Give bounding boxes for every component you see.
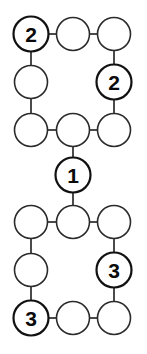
graph-node-plain[interactable] <box>15 66 48 99</box>
node-circle-icon[interactable] <box>57 114 90 147</box>
graph-node-plain[interactable] <box>57 114 90 147</box>
graph-node-labeled[interactable]: 1 <box>56 158 91 193</box>
graph-node-plain[interactable] <box>98 114 131 147</box>
node-circle-icon[interactable] <box>57 18 90 51</box>
graph-node-plain[interactable] <box>15 254 48 287</box>
graph-node-labeled[interactable]: 2 <box>14 17 49 52</box>
node-circle-icon[interactable] <box>57 302 90 335</box>
graph-node-plain[interactable] <box>57 206 90 239</box>
node-circle-icon[interactable] <box>98 18 131 51</box>
node-label: 3 <box>25 307 37 330</box>
node-circle-icon[interactable] <box>15 66 48 99</box>
graph-node-labeled[interactable]: 2 <box>97 65 132 100</box>
graph-node-plain[interactable] <box>98 206 131 239</box>
graph-node-plain[interactable] <box>98 302 131 335</box>
node-circle-icon[interactable] <box>98 302 131 335</box>
graph-node-plain[interactable] <box>15 114 48 147</box>
graph-node-labeled[interactable]: 3 <box>97 253 132 288</box>
graph-node-plain[interactable] <box>98 18 131 51</box>
node-circle-icon[interactable] <box>15 114 48 147</box>
node-circle-icon[interactable] <box>57 206 90 239</box>
node-circle-icon[interactable] <box>15 206 48 239</box>
node-label: 2 <box>25 23 37 46</box>
node-circle-icon[interactable] <box>98 114 131 147</box>
node-circle-icon[interactable] <box>98 206 131 239</box>
graph-node-labeled[interactable]: 3 <box>14 301 49 336</box>
node-label: 1 <box>67 164 79 187</box>
graph-node-plain[interactable] <box>15 206 48 239</box>
graph-node-plain[interactable] <box>57 302 90 335</box>
node-link-graph: 22133 <box>0 0 147 354</box>
node-label: 3 <box>108 259 120 282</box>
graph-node-plain[interactable] <box>57 18 90 51</box>
node-circle-icon[interactable] <box>15 254 48 287</box>
diagram-canvas: 22133 <box>0 0 147 354</box>
node-label: 2 <box>108 71 120 94</box>
